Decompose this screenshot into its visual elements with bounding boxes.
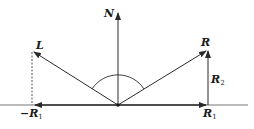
origin-point bbox=[116, 103, 120, 107]
reflection-diagram: N L R R2 R1 −R1 bbox=[0, 0, 254, 129]
label-r: R bbox=[200, 36, 210, 49]
vector-l bbox=[34, 52, 118, 105]
label-r1: R1 bbox=[202, 107, 217, 121]
label-n: N bbox=[103, 7, 115, 20]
label-neg-r1: −R1 bbox=[20, 107, 43, 121]
label-r2: R2 bbox=[210, 73, 225, 87]
label-l: L bbox=[35, 39, 44, 52]
